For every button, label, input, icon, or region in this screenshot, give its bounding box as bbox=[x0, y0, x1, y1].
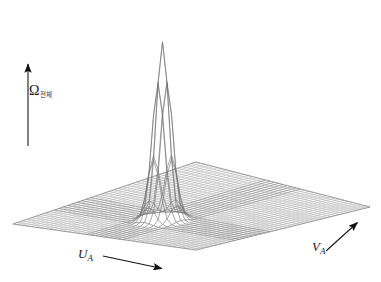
u-subscript: A bbox=[87, 253, 93, 263]
u-symbol: U bbox=[78, 246, 87, 261]
v-subscript: A bbox=[320, 246, 326, 256]
u-axis-label: UA bbox=[78, 247, 93, 260]
omega-axis-label: Ω전체 bbox=[29, 84, 51, 98]
v-axis-label: VA bbox=[312, 240, 325, 253]
omega-symbol: Ω bbox=[29, 83, 39, 98]
mesh-grid bbox=[13, 162, 370, 250]
surface-plot-figure: Ω전체 UA VA bbox=[0, 0, 381, 282]
v-symbol: V bbox=[312, 239, 320, 254]
v-axis-arrow bbox=[326, 223, 358, 252]
u-axis-arrow bbox=[103, 256, 162, 269]
omega-subscript: 전체 bbox=[40, 91, 52, 98]
